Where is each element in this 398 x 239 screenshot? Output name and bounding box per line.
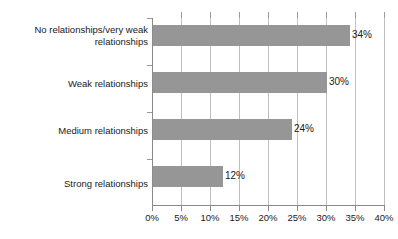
plot-area bbox=[152, 18, 384, 205]
category-label-3-line-0: Strong relationships bbox=[64, 178, 148, 189]
category-label-1-line-0: Weak relationships bbox=[68, 78, 148, 89]
gridline-35 bbox=[355, 18, 356, 205]
x-tick-label-1: 5% bbox=[174, 212, 188, 223]
category-label-0-line-0: No relationships/very weak bbox=[34, 24, 148, 35]
x-axis-tick-4 bbox=[268, 206, 269, 211]
category-label-3: Strong relationships bbox=[2, 178, 152, 190]
top-tick-5 bbox=[181, 12, 182, 18]
x-tick-label-6: 30% bbox=[316, 212, 335, 223]
x-tick-label-3: 15% bbox=[229, 212, 248, 223]
bar-3 bbox=[153, 166, 223, 187]
x-axis-tick-3 bbox=[239, 206, 240, 211]
category-label-2: Medium relationships bbox=[2, 125, 152, 137]
x-tick-label-8: 40% bbox=[374, 212, 393, 223]
bar-value-1: 30% bbox=[329, 76, 349, 87]
top-tick-35 bbox=[355, 12, 356, 18]
y-axis-tick-3 bbox=[147, 159, 152, 160]
top-tick-20 bbox=[268, 12, 269, 18]
bar-value-3: 12% bbox=[225, 170, 245, 181]
bar-0 bbox=[153, 25, 350, 46]
gridline-30 bbox=[326, 18, 327, 205]
x-axis-tick-8 bbox=[384, 206, 385, 211]
category-axis-labels: No relationships/very weak relationships… bbox=[0, 0, 152, 239]
gridline-40 bbox=[384, 18, 385, 205]
x-axis-tick-5 bbox=[297, 206, 298, 211]
top-tick-15 bbox=[239, 12, 240, 18]
x-axis-tick-2 bbox=[210, 206, 211, 211]
x-tick-label-0: 0% bbox=[145, 212, 159, 223]
category-label-1: Weak relationships bbox=[2, 78, 152, 90]
top-tick-10 bbox=[210, 12, 211, 18]
x-axis-tick-6 bbox=[326, 206, 327, 211]
x-axis-tick-0 bbox=[152, 206, 153, 211]
x-tick-label-4: 20% bbox=[258, 212, 277, 223]
x-tick-label-5: 25% bbox=[287, 212, 306, 223]
category-label-0: No relationships/very weak relationships bbox=[2, 24, 152, 47]
x-axis-tick-1 bbox=[181, 206, 182, 211]
bar-value-0: 34% bbox=[352, 29, 372, 40]
x-axis-tick-7 bbox=[355, 206, 356, 211]
x-tick-label-2: 10% bbox=[200, 212, 219, 223]
gridline-25 bbox=[297, 18, 298, 205]
top-tick-25 bbox=[297, 12, 298, 18]
bar-value-2: 24% bbox=[294, 123, 314, 134]
gridline-20 bbox=[268, 18, 269, 205]
category-label-0-line-1: relationships bbox=[95, 36, 148, 47]
top-tick-30 bbox=[326, 12, 327, 18]
bar-2 bbox=[153, 119, 292, 140]
bar-chart: No relationships/very weak relationships… bbox=[0, 0, 398, 239]
category-label-2-line-0: Medium relationships bbox=[58, 125, 148, 136]
top-tick-40 bbox=[384, 12, 385, 18]
y-axis-tick-1 bbox=[147, 65, 152, 66]
x-tick-label-7: 35% bbox=[345, 212, 364, 223]
y-axis-tick-0 bbox=[147, 18, 152, 19]
y-axis-tick-2 bbox=[147, 112, 152, 113]
bar-1 bbox=[153, 72, 327, 93]
